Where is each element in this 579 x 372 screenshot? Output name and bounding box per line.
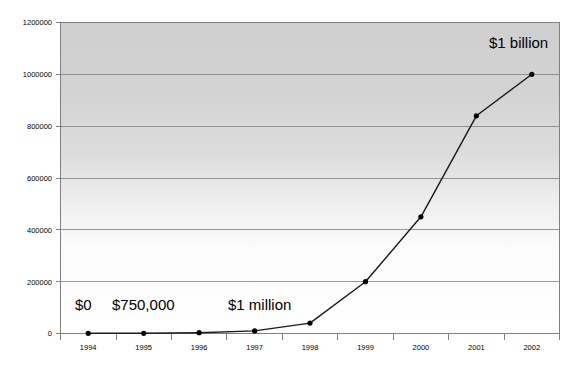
y-axis-label-1000000: 1000000	[23, 70, 52, 79]
x-axis-labels: 1994 1995 1996 1997 1998 1999 2000 2001 …	[80, 343, 540, 352]
x-axis-label-1996: 1996	[191, 343, 208, 352]
data-point-2000	[418, 214, 423, 219]
y-axis-ticks	[56, 23, 61, 334]
data-point-1994	[86, 331, 91, 336]
x-axis-label-1997: 1997	[246, 343, 263, 352]
data-point-1996	[197, 330, 202, 335]
annotation-one-billion: $1 billion	[489, 34, 548, 51]
x-axis-label-2000: 2000	[413, 343, 430, 352]
data-point-1999	[363, 279, 368, 284]
y-axis-label-200000: 200000	[27, 278, 52, 287]
y-axis-label-1200000: 1200000	[23, 18, 52, 27]
x-axis-label-2001: 2001	[468, 343, 485, 352]
y-axis-label-400000: 400000	[27, 226, 52, 235]
line-chart: 1200000 1000000 800000 600000 400000 200…	[0, 0, 579, 372]
annotation-one-million: $1 million	[228, 296, 291, 313]
y-axis-label-0: 0	[48, 329, 52, 338]
annotation-zero: $0	[75, 296, 92, 313]
data-point-2001	[474, 113, 479, 118]
x-axis-label-1998: 1998	[302, 343, 319, 352]
x-axis-ticks	[61, 334, 560, 340]
y-axis-label-600000: 600000	[27, 174, 52, 183]
x-axis-label-2002: 2002	[523, 343, 540, 352]
x-axis-label-1995: 1995	[135, 343, 152, 352]
data-point-2002	[529, 72, 534, 77]
y-axis-labels: 1200000 1000000 800000 600000 400000 200…	[23, 18, 52, 338]
data-point-1997	[252, 328, 257, 333]
chart-container: 1200000 1000000 800000 600000 400000 200…	[0, 0, 579, 372]
annotation-750-thousand: $750,000	[112, 296, 175, 313]
x-axis-label-1994: 1994	[80, 343, 97, 352]
x-axis-label-1999: 1999	[357, 343, 374, 352]
data-point-1998	[307, 321, 312, 326]
y-axis-label-800000: 800000	[27, 122, 52, 131]
data-point-1995	[141, 331, 146, 336]
